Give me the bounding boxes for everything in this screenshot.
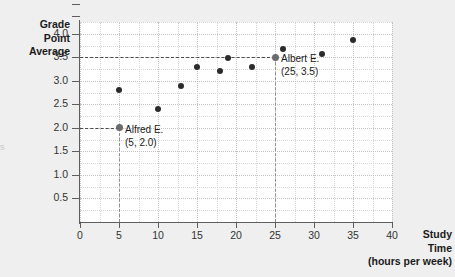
x-axis-title-line-1: Study	[300, 228, 452, 242]
annotation-albert-name: Albert E.	[281, 52, 319, 65]
gridline-x-40	[392, 22, 393, 222]
y-tick-mark-1.5	[72, 151, 80, 152]
y-tick-label-1.5: 1.5	[53, 144, 68, 156]
y-tick-mark-2.5	[72, 104, 80, 105]
y-tick-mark-unlabeled-0	[72, 4, 80, 5]
x-tick-label-35: 35	[347, 229, 359, 241]
data-point-2	[155, 106, 161, 112]
y-tick-mark-0.5	[72, 198, 80, 199]
x-tick-label-10: 10	[152, 229, 164, 241]
x-tick-mark-40	[392, 222, 393, 228]
guide-albert-horizontal	[80, 57, 275, 58]
gridline-y-1.00	[80, 175, 392, 176]
gridline-y-2.50	[80, 104, 392, 105]
x-tick-label-30: 30	[308, 229, 320, 241]
y-tick-mark-3.5	[72, 57, 80, 58]
x-tick-mark-35	[353, 222, 354, 228]
y-tick-mark-1.0	[72, 175, 80, 176]
annotation-albert-coords: (25, 3.5)	[281, 65, 319, 78]
edge-artifact-glyph: s	[0, 143, 5, 152]
data-point-4	[194, 64, 200, 70]
gridline-y-4.00	[80, 34, 392, 35]
gridline-y-2.75	[80, 93, 392, 94]
gridline-y-4.25	[80, 22, 392, 23]
y-tick-label-2.5: 2.5	[53, 97, 68, 109]
x-tick-mark-0	[80, 222, 81, 228]
gridline-x-20	[236, 22, 237, 222]
y-tick-label-3.0: 3.0	[53, 74, 68, 86]
annotation-albert: Albert E.(25, 3.5)	[281, 52, 319, 78]
data-point-7	[249, 64, 255, 70]
x-axis-title: Study Time (hours per week)	[300, 228, 452, 269]
gridline-x-32.5	[334, 22, 335, 222]
gridline-x-35	[353, 22, 354, 222]
data-point-10	[319, 51, 325, 57]
gridline-y-3.00	[80, 81, 392, 82]
guide-alfred-vertical	[119, 128, 120, 222]
gridline-x-37.5	[373, 22, 374, 222]
gridline-y-0.25	[80, 210, 392, 211]
annotation-alfred-coords: (5, 2.0)	[125, 136, 163, 149]
data-point-6	[225, 55, 231, 61]
gridline-y-2.25	[80, 116, 392, 117]
data-point-1	[116, 87, 122, 93]
gridline-y-0.75	[80, 187, 392, 188]
x-axis-title-line-2: Time	[300, 242, 452, 256]
x-tick-mark-5	[119, 222, 120, 228]
plot-area: Alfred E.(5, 2.0)Albert E.(25, 3.5)	[80, 22, 392, 222]
x-tick-label-0: 0	[77, 229, 83, 241]
guide-albert-vertical	[275, 57, 276, 222]
gridline-y-3.25	[80, 69, 392, 70]
y-tick-mark-2.0	[72, 128, 80, 129]
x-tick-label-20: 20	[230, 229, 242, 241]
x-tick-mark-15	[197, 222, 198, 228]
annotation-alfred-name: Alfred E.	[125, 123, 163, 136]
x-tick-mark-10	[158, 222, 159, 228]
x-tick-label-15: 15	[191, 229, 203, 241]
gridline-x-15	[197, 22, 198, 222]
data-point-3	[178, 83, 184, 89]
y-tick-label-0.5: 0.5	[53, 191, 68, 203]
x-tick-mark-30	[314, 222, 315, 228]
y-tick-label-4.0: 4.0	[53, 27, 68, 39]
data-point-9	[280, 46, 286, 52]
gridline-x-22.5	[256, 22, 257, 222]
gridline-x-0	[80, 22, 81, 222]
gridline-y-1.50	[80, 151, 392, 152]
gridline-y-0.50	[80, 198, 392, 199]
y-tick-mark-3.0	[72, 81, 80, 82]
x-tick-label-25: 25	[269, 229, 281, 241]
guide-alfred-horizontal	[80, 128, 119, 129]
data-point-8	[272, 54, 279, 61]
gridline-x-2.5	[100, 22, 101, 222]
x-tick-label-40: 40	[386, 229, 398, 241]
y-tick-label-2.0: 2.0	[53, 121, 68, 133]
annotation-alfred: Alfred E.(5, 2.0)	[125, 123, 163, 149]
x-tick-mark-20	[236, 222, 237, 228]
y-tick-label-1.0: 1.0	[53, 168, 68, 180]
scatter-plot-figure: s Grade Point Average Study Time (hours …	[0, 0, 455, 277]
data-point-5	[217, 68, 223, 74]
y-axis-line	[79, 20, 80, 224]
y-tick-mark-unlabeled-1	[72, 16, 80, 17]
gridline-x-12.5	[178, 22, 179, 222]
data-point-11	[350, 37, 356, 43]
x-tick-mark-25	[275, 222, 276, 228]
data-point-0	[116, 124, 123, 131]
y-tick-mark-4.0	[72, 34, 80, 35]
x-tick-label-5: 5	[116, 229, 122, 241]
x-axis-title-line-3: (hours per week)	[300, 255, 452, 269]
gridline-y-1.25	[80, 163, 392, 164]
gridline-x-17.5	[217, 22, 218, 222]
gridline-y-3.75	[80, 46, 392, 47]
y-tick-label-3.5: 3.5	[53, 50, 68, 62]
